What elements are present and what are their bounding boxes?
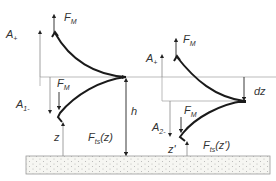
amp-down-label-left: A [15, 98, 23, 110]
tip-marker-left [122, 75, 126, 79]
svg-text:FM: FM [57, 77, 70, 91]
svg-text:A1-: A1- [15, 98, 30, 112]
svg-text:FM: FM [64, 11, 77, 25]
svg-text:FM: FM [184, 104, 197, 118]
gap-label-right: z' [167, 143, 177, 155]
amp-up-label-left: A [5, 28, 13, 40]
gap-label-left: z [53, 131, 60, 143]
height-label: h [131, 105, 137, 117]
cantilever-curve-upper-left [52, 32, 126, 77]
substrate [26, 156, 270, 174]
svg-text:A+: A+ [145, 52, 157, 66]
left-state: FM A+ FM A1- h z Fts(z) [5, 11, 137, 156]
cantilever-diagram: FM A+ FM A1- h z Fts(z) FM A+ dz FM A2- … [0, 0, 276, 181]
shift-label: dz [254, 85, 266, 97]
amp-up-label-right: A [145, 52, 153, 64]
svg-text:A2-: A2- [151, 121, 166, 135]
amp-down-label-right: A [151, 121, 159, 133]
svg-text:Fts(z): Fts(z) [88, 131, 113, 145]
right-state: FM A+ dz FM A2- z' Fts(z') [145, 33, 266, 156]
cantilever-curve-upper-right [174, 56, 244, 101]
tip-marker-right [238, 100, 246, 103]
svg-text:FM: FM [183, 33, 196, 47]
svg-text:A+: A+ [5, 28, 17, 42]
svg-text:Fts(z'): Fts(z') [203, 139, 230, 153]
